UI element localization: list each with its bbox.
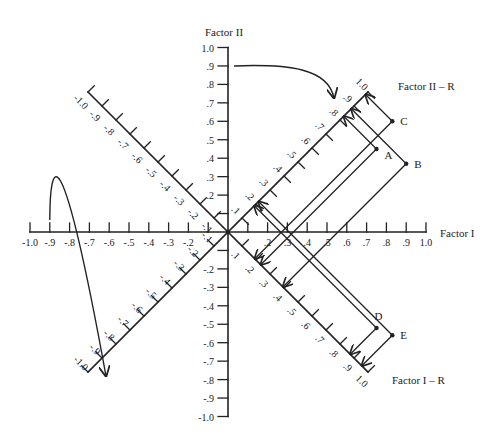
factor2r-tick-label: .8 [327,105,340,118]
factor2-tick-label: -.3 [203,282,214,293]
factor1r-tick-label: .4 [271,290,284,303]
data-point-label-E: E [400,329,407,341]
factor1-axis-title: Factor I [440,227,475,239]
factor2r-tick [284,176,290,182]
data-point-label-A: A [385,149,393,161]
factor1r-neg-tick-label: -.6 [129,150,144,165]
factor2-tick-label: 1.0 [202,43,215,54]
factor2r-tick-label: 1.0 [354,76,371,93]
factor1r-neg-tick-label: -.8 [101,122,116,137]
factor1-tick-label: -1.0 [22,237,38,248]
factor1-tick-label: .4 [303,237,311,248]
factor2-tick-label: -.9 [203,393,214,404]
data-point-label-B: B [414,158,421,170]
factor1r-tick [340,338,346,344]
factor1r-neg-tick-label: -.4 [157,178,172,193]
factor1-tick-label: -.3 [163,237,174,248]
factor1r-tick-label: .9 [341,360,354,373]
factor2r-tick [326,134,332,140]
rotation-arrow-top [234,66,334,98]
data-point-A [374,147,378,151]
factor2r-tick-label: .2 [243,189,256,202]
factor1-tick-label: -.6 [104,237,115,248]
factor2r-neg-tick-label: -.7 [115,313,130,328]
factor2-tick-label: -.2 [203,264,214,275]
factor1r-tick-label: .2 [243,262,256,275]
factor2-tick-label: .9 [207,61,215,72]
projection-line-A [344,116,377,149]
projection-line-D [350,328,376,354]
factor2-tick-label: -.7 [203,356,214,367]
factor2r-neg-tick-label: -.4 [157,271,172,286]
factor2r-tick [242,218,248,224]
projection-line-B [351,109,406,164]
factor2r-tick-label: .7 [313,119,326,132]
data-point-label-C: C [400,115,407,127]
factor1r-neg-tick-label: -.1 [199,220,214,235]
factor1-tick-label: -.7 [84,237,95,248]
projection-line-C [366,94,393,121]
factor1r-tick [354,352,360,358]
factor1r-neg-tick [102,100,108,106]
factor-rotation-diagram: -1.0-.9-.8-.7-.6-.5-.4-.3-.2.2.3.4.5.6.7… [0,0,492,444]
factor1-tick-label: .7 [363,237,371,248]
factor1-tick-label: -.8 [64,237,75,248]
factor2r-neg-tick-label: -.3 [171,257,186,272]
factor1r-neg-tick-label: -.7 [115,136,130,151]
factor1r-tick [270,268,276,274]
factor2r-neg-tick-label: -1.0 [72,354,91,373]
factor2-tick-label: -.6 [203,338,214,349]
factor1r-neg-tick-label: -.2 [185,206,200,221]
factor2-tick-label: -1.0 [198,412,214,423]
factor2r-tick-label: .9 [341,91,354,104]
factor1r-neg-tick [144,142,150,148]
factor1r-neg-tick [116,114,122,120]
factor1r-neg-tick [88,86,94,92]
factor2r-tick [354,106,360,112]
diagram-canvas: -1.0-.9-.8-.7-.6-.5-.4-.3-.2.2.3.4.5.6.7… [0,0,492,444]
factor1r-neg-tick-label: -.5 [143,164,158,179]
factor2r-axis-title: Factor II – R [398,80,455,92]
factor2r-tick [312,148,318,154]
factor1r-tick-label: .7 [313,332,326,345]
factor2-tick-label: .2 [207,190,215,201]
factor2r-tick [340,120,346,126]
factor2r-neg-tick-label: -.8 [101,327,116,342]
origin-point [226,230,230,234]
factor2-tick-label: .6 [207,116,215,127]
factor2r-tick-label: .1 [229,203,242,216]
factor1r-neg-tick [130,128,136,134]
factor1-tick-label: .6 [343,237,351,248]
factor1r-tick-label: .8 [327,346,340,359]
factor1r-neg-tick [200,198,206,204]
factor2-axis-title: Factor II [205,26,244,38]
projection-line-E [362,335,393,366]
data-point-B [404,162,408,166]
factor1r-tick-label: .6 [299,318,312,331]
factor2r-neg-tick-label: -.5 [143,285,158,300]
factor2-tick-label: .8 [207,79,215,90]
factor1r-tick-label: .1 [229,248,242,261]
factor1r-tick [298,296,304,302]
factor1-tick-label: .9 [402,237,410,248]
factor2-tick-label: -.5 [203,319,214,330]
projection-line-secondary-D [254,206,376,328]
factor1r-tick-label: 1.0 [354,373,371,390]
factor1r-neg-tick-label: -.3 [171,192,186,207]
factor2r-tick [298,162,304,168]
factor1r-tick-label: .5 [285,304,298,317]
factor1-tick-label: -.5 [124,237,135,248]
factor1r-tick [368,366,374,372]
projection-line-secondary-B [283,164,406,287]
factor1r-axis-title: Factor I – R [392,374,446,386]
factor2-tick-label: -.8 [203,375,214,386]
factor1r-tick [326,324,332,330]
data-point-C [390,119,394,123]
data-point-label-D: D [375,310,383,322]
factor2r-neg-tick-label: -.6 [129,299,144,314]
factor1r-neg-tick [186,184,192,190]
factor2r-tick-label: .5 [285,147,298,160]
factor1r-neg-tick [214,212,220,218]
factor2-tick-label: -.4 [203,301,214,312]
projection-line-secondary-E [259,201,393,335]
